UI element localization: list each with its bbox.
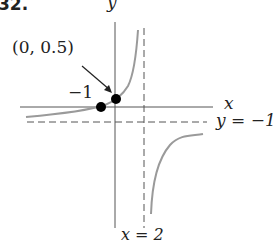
problem-number: 32. [0,0,28,14]
intercept-label: −1 [68,82,93,102]
y-axis-label: y [107,0,117,12]
point-x-intercept [96,102,106,112]
point-label: (0, 0.5) [12,37,74,57]
point-y-intercept [111,94,121,104]
vertical-asymptote-label: x = 2 [121,225,164,242]
horizontal-asymptote-label: y = −1 [216,110,276,130]
right-branch-curve [151,134,203,214]
